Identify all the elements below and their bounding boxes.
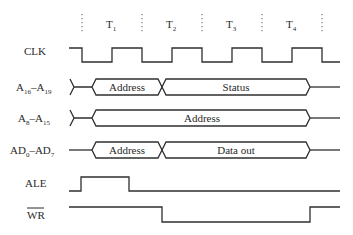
state-label-t1: T1: [106, 18, 117, 33]
wr-waveform: [69, 207, 340, 222]
segment-label-address: Address: [184, 112, 220, 124]
bus-undefined-start: [70, 79, 92, 95]
label-ale: ALE: [25, 177, 47, 189]
state-label-t2: T2: [166, 18, 177, 33]
label-a8-a15: A8–A15: [18, 112, 50, 127]
bus-a8-a15: Address: [70, 110, 340, 126]
segment-label-address: Address: [109, 144, 145, 156]
label-clk: CLK: [24, 45, 46, 57]
label-a16-a19: A16–A19: [16, 81, 52, 96]
state-label-t4: T4: [286, 18, 297, 33]
bus-ad0-ad7: Address Data out: [69, 142, 340, 158]
label-ad0-ad7: AD0–AD7: [10, 144, 55, 159]
clk-waveform: [69, 48, 340, 62]
bus-undefined-start: [70, 110, 92, 126]
timing-diagram: T1 T2 T3 T4 CLK A16–A19 A8–A15 AD0–AD7 A…: [0, 0, 353, 235]
segment-label-status: Status: [223, 81, 250, 93]
clock-state-labels: T1 T2 T3 T4: [106, 18, 297, 33]
ale-waveform: [69, 177, 340, 191]
signal-labels: CLK A16–A19 A8–A15 AD0–AD7 ALE WR: [10, 45, 55, 221]
state-label-t3: T3: [226, 18, 237, 33]
segment-label-address: Address: [109, 81, 145, 93]
segment-label-data-out: Data out: [217, 144, 255, 156]
bus-a16-a19: Address Status: [70, 79, 340, 95]
label-wr: WR: [27, 209, 45, 221]
